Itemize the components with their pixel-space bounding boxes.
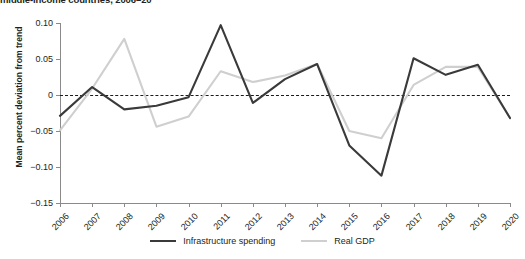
plot-area: 0.100.050−0.05−0.10−0.15 200620072008200… <box>60 23 510 203</box>
legend-label: Real GDP <box>334 236 375 246</box>
x-tick-mark <box>124 203 125 207</box>
chart-title: middle-income countries, 2006–20 <box>0 0 525 6</box>
x-tick-mark <box>317 203 318 207</box>
series-lines <box>60 23 510 203</box>
legend-item[interactable]: Infrastructure spending <box>150 236 275 246</box>
x-tick-mark <box>381 203 382 207</box>
dark-line-swatch <box>150 240 176 242</box>
x-tick-mark <box>510 203 511 207</box>
x-tick-mark <box>92 203 93 207</box>
y-tick-label: 0.10 <box>35 18 53 28</box>
legend-label: Infrastructure spending <box>183 236 275 246</box>
chart-container: middle-income countries, 2006–20 Mean pe… <box>0 0 525 259</box>
y-tick-label: −0.05 <box>30 126 53 136</box>
series-line <box>60 39 510 138</box>
light-line-swatch <box>301 240 327 242</box>
x-tick-mark <box>221 203 222 207</box>
y-tick-label: 0 <box>48 90 53 100</box>
y-tick-label: 0.05 <box>35 54 53 64</box>
x-tick-mark <box>285 203 286 207</box>
x-tick-mark <box>446 203 447 207</box>
x-tick-mark <box>189 203 190 207</box>
chart-legend: Infrastructure spendingReal GDP <box>0 236 525 246</box>
x-tick-mark <box>478 203 479 207</box>
y-axis-label: Mean percent deviation from trend <box>14 12 24 182</box>
x-tick-mark <box>156 203 157 207</box>
y-tick-label: −0.10 <box>30 162 53 172</box>
x-tick-mark <box>60 203 61 207</box>
x-tick-mark <box>253 203 254 207</box>
legend-item[interactable]: Real GDP <box>301 236 375 246</box>
y-tick-label: −0.15 <box>30 198 53 208</box>
x-tick-mark <box>414 203 415 207</box>
x-tick-mark <box>349 203 350 207</box>
